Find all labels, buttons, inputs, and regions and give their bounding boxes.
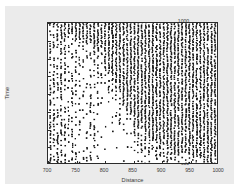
plot-area[interactable] (47, 22, 218, 164)
y-tick-mark (48, 112, 51, 113)
y-axis-title: Time (4, 73, 10, 113)
scatter-plot-canvas (48, 23, 217, 163)
x-tick-mark (105, 161, 106, 164)
x-tick-label: 750 (71, 168, 79, 173)
y-tick-mark (48, 59, 51, 60)
x-tick-label: 800 (100, 168, 108, 173)
x-axis-title: Distance (47, 177, 218, 183)
y-tick-mark (48, 147, 51, 148)
x-tick-label: 900 (157, 168, 165, 173)
x-tick-label: 1000 (212, 168, 223, 173)
x-tick-label: 700 (43, 168, 51, 173)
x-tick-mark (48, 161, 49, 164)
x-tick-mark (134, 161, 135, 164)
y-tick-mark (48, 130, 51, 131)
figure-background: Time Distance 60065070075080085090095010… (5, 6, 234, 184)
x-tick-mark (77, 161, 78, 164)
y-tick-mark (48, 41, 51, 42)
x-tick-label: 850 (128, 168, 136, 173)
x-tick-mark (162, 161, 163, 164)
y-tick-mark (48, 23, 51, 24)
x-tick-label: 950 (185, 168, 193, 173)
y-tick-mark (48, 94, 51, 95)
y-tick-mark (48, 76, 51, 77)
x-tick-mark (191, 161, 192, 164)
